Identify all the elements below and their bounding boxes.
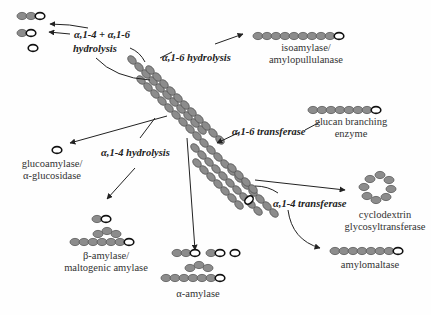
enzyme-branching-line2: enzyme: [306, 128, 396, 140]
enzyme-glucoamylase: glucoamylase/ α-glucosidase: [12, 158, 92, 182]
enzyme-amylomaltase: amylomaltase: [330, 259, 410, 271]
reaction-a16-hydrolysis: α,1-6 hydrolysis: [162, 52, 231, 64]
glucoamylase-product: [52, 147, 62, 154]
enzyme-beta-amylase-line2: maltogenic amylase: [58, 262, 154, 274]
reaction-a16-transferase: α,1-6 transferase: [232, 126, 305, 138]
enzyme-cgtase-line1: cyclodextrin: [339, 209, 431, 221]
beta-amylase-products: [70, 215, 134, 245]
enzyme-glucoamylase-line1: glucoamylase/: [12, 158, 92, 170]
starch-enzyme-diagram: α,1-4 + α,1-6 hydrolysis α,1-6 hydrolysi…: [0, 0, 431, 315]
enzyme-glucoamylase-line2: α-glucosidase: [12, 170, 92, 182]
enzyme-isoamylase-line2: amylopullulanase: [258, 54, 354, 66]
enzyme-cgtase: cyclodextrin glycosyltransferase: [339, 209, 431, 233]
isoamylase-product: [253, 32, 344, 39]
enzyme-glucan-branching: glucan branching enzyme: [306, 116, 396, 140]
enzyme-isoamylase: isoamylase/ amylopullulanase: [258, 42, 354, 66]
enzyme-isoamylase-line1: isoamylase/: [258, 42, 354, 54]
enzyme-alpha-amylase: α-amylase: [168, 288, 228, 300]
enzyme-beta-amylase: β-amylase/ maltogenic amylase: [58, 250, 154, 274]
enzyme-cgtase-line2: glycosyltransferase: [339, 221, 431, 233]
cyclodextrin-product: [359, 171, 396, 203]
amylomaltase-product: [330, 247, 403, 254]
alpha-amylase-products: [161, 249, 240, 281]
products-a14-a16-hydrolysis: [17, 12, 45, 51]
reaction-a14-hydrolysis: α,1-4 hydrolysis: [101, 147, 170, 159]
branching-enzyme-product: [308, 106, 381, 113]
enzyme-branching-line1: glucan branching: [306, 116, 396, 128]
enzyme-beta-amylase-line1: β-amylase/: [58, 250, 154, 262]
reaction-a14-a16-hydrolysis-line1: α,1-4 + α,1-6: [74, 29, 130, 41]
reaction-a14-a16-hydrolysis-line2: hydrolysis: [73, 43, 117, 55]
reaction-a14-transferase: α,1-4 transferase: [273, 198, 346, 210]
